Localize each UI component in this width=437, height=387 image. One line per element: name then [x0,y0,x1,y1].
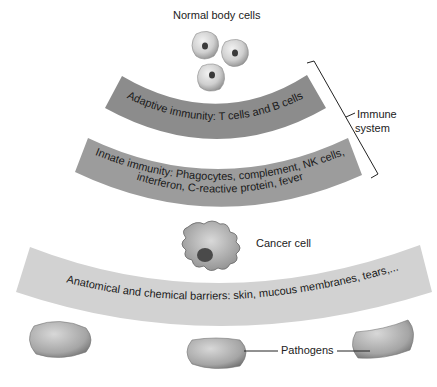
cancer-cell-icon [182,221,240,271]
pathogen-icon [352,320,413,358]
normal-cells-label: Normal body cells [173,9,260,21]
pathogens-label: Pathogens [281,344,334,356]
cancer-cell-label: Cancer cell [256,237,311,249]
pathogen-icon [187,338,246,369]
immune-system-label-line1: Immune [357,108,397,120]
normal-cell-icon [222,39,249,66]
normal-cell-icon [197,64,224,91]
bracket-tick [346,113,355,117]
pathogen-icon [29,321,91,357]
diagram-canvas: Adaptive immunity: T cells and B cells I… [0,0,437,387]
immune-system-label-line2: system [355,122,390,134]
normal-cell-icon [192,31,219,59]
